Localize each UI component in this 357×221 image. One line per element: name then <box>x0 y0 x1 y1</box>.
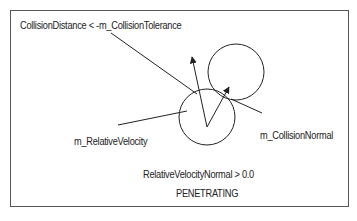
relative-velocity-leader <box>118 111 187 125</box>
collision-distance-label: CollisionDistance < -m_CollisionToleranc… <box>20 19 181 31</box>
lower-sphere <box>179 89 235 145</box>
relative-velocity-normal-label: RelativeVelocityNormal > 0.0 <box>143 168 254 180</box>
collision-normal-label: m_CollisionNormal <box>260 129 333 141</box>
collision-distance-leader <box>111 33 197 94</box>
upper-sphere <box>208 44 264 100</box>
collision-normal-leader <box>231 99 262 113</box>
relative-velocity-label: m_RelativeVelocity <box>74 135 147 147</box>
penetrating-state-label: PENETRATING <box>176 187 238 199</box>
